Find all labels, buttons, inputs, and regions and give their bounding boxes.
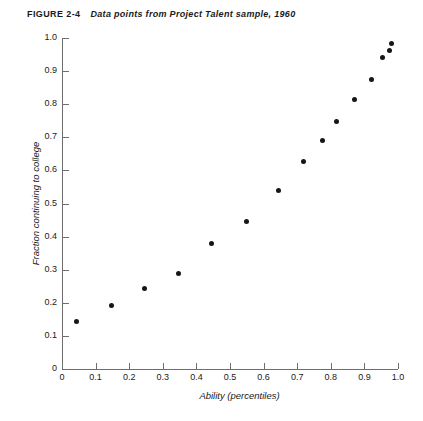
x-tick-mark — [163, 363, 164, 369]
data-point — [389, 41, 394, 46]
y-tick-mark — [63, 137, 69, 138]
x-tick-mark — [364, 363, 365, 369]
x-tick-mark — [129, 363, 130, 369]
y-tick-label: 1.0 — [33, 32, 57, 42]
x-axis-title: Ability (percentiles) — [0, 390, 423, 401]
data-point — [244, 219, 249, 224]
x-tick-label: 0.9 — [350, 372, 378, 382]
y-tick-mark — [63, 303, 69, 304]
data-point — [369, 77, 374, 82]
x-tick-mark — [264, 363, 265, 369]
x-tick-label: 0.6 — [250, 372, 278, 382]
data-point — [209, 241, 214, 246]
x-tick-label: 0 — [48, 372, 76, 382]
y-tick-mark — [63, 204, 69, 205]
y-tick-mark — [63, 104, 69, 105]
x-tick-label: 0.4 — [182, 372, 210, 382]
x-tick-label: 0.7 — [283, 372, 311, 382]
y-tick-mark — [63, 38, 69, 39]
scatter-plot: 00.10.20.30.40.50.60.70.80.91.0 00.10.20… — [0, 0, 423, 421]
y-tick-mark — [63, 71, 69, 72]
data-point — [109, 303, 114, 308]
x-tick-mark — [297, 363, 298, 369]
x-tick-mark — [331, 363, 332, 369]
x-tick-label: 0.1 — [82, 372, 110, 382]
y-tick-mark — [63, 237, 69, 238]
x-tick-mark — [96, 363, 97, 369]
data-point — [334, 119, 339, 124]
data-point — [276, 188, 281, 193]
x-tick-label: 0.5 — [216, 372, 244, 382]
x-tick-mark — [398, 363, 399, 369]
data-point — [301, 159, 306, 164]
x-tick-label: 0.2 — [115, 372, 143, 382]
y-tick-mark — [63, 170, 69, 171]
data-point — [74, 319, 79, 324]
data-point — [352, 97, 357, 102]
y-tick-label: 0.9 — [33, 65, 57, 75]
data-point — [176, 271, 181, 276]
x-tick-label: 0.3 — [149, 372, 177, 382]
data-point — [380, 55, 385, 60]
y-tick-mark — [63, 270, 69, 271]
y-tick-label: 0.1 — [33, 330, 57, 340]
x-tick-label: 0.8 — [317, 372, 345, 382]
y-axis-title: Fraction continuing to college — [30, 94, 41, 314]
x-axis-line — [62, 369, 398, 370]
x-tick-mark — [230, 363, 231, 369]
data-point — [320, 138, 325, 143]
data-point — [142, 286, 147, 291]
x-tick-label: 1.0 — [384, 372, 412, 382]
x-tick-mark — [196, 363, 197, 369]
figure-container: FIGURE 2-4Data points from Project Talen… — [0, 0, 423, 421]
data-point — [387, 48, 392, 53]
y-tick-mark — [63, 336, 69, 337]
